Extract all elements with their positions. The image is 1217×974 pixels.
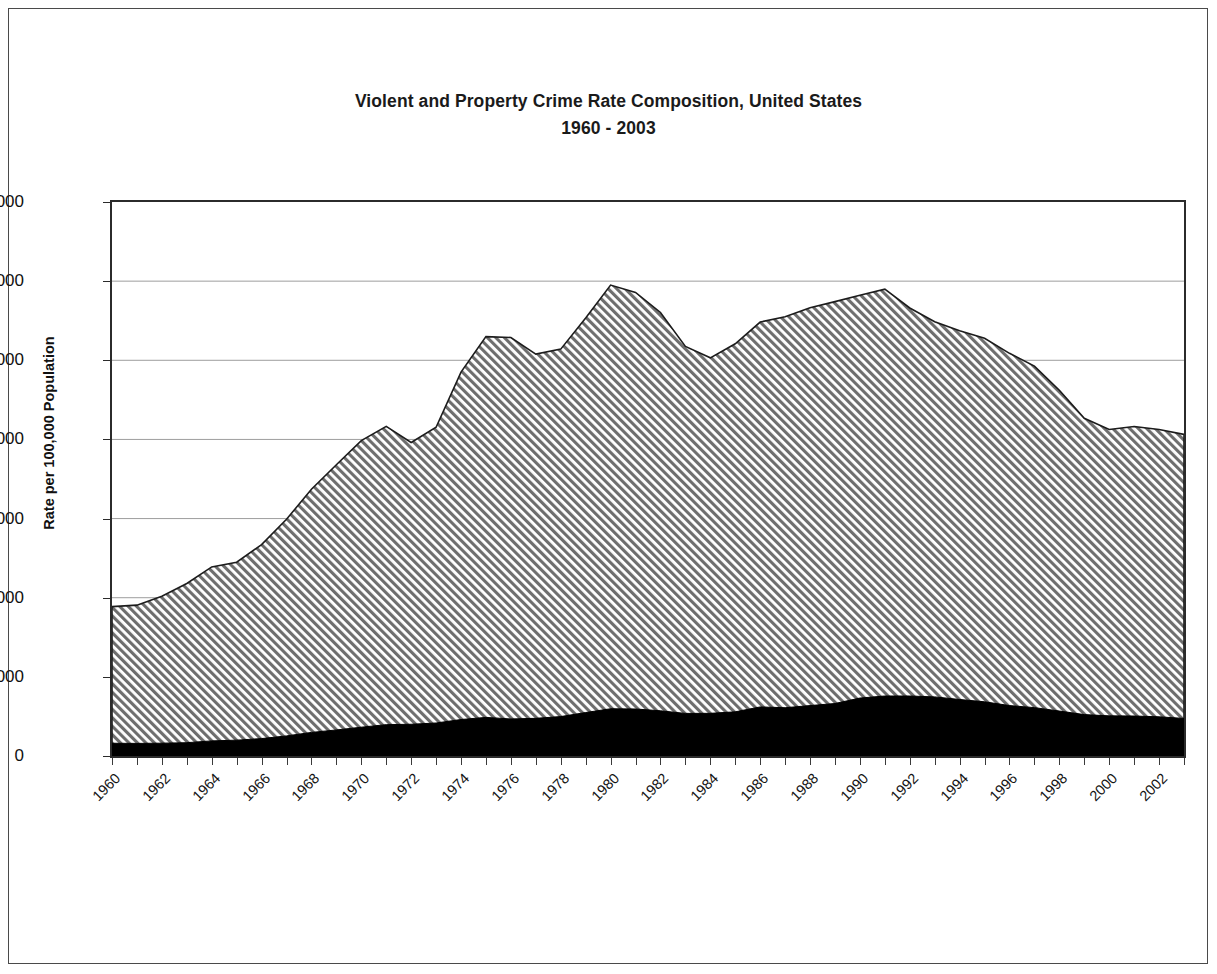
x-tick-mark-1962 — [162, 758, 163, 765]
y-axis-title: Rate per 100,000 Population — [41, 153, 57, 713]
x-tick-mark-1987 — [785, 758, 786, 765]
x-tick-mark-1972 — [411, 758, 412, 765]
x-tick-mark-1966 — [262, 758, 263, 765]
x-tick-mark-2002 — [1159, 758, 1160, 765]
x-tick-mark-1976 — [511, 758, 512, 765]
x-tick-mark-1999 — [1084, 758, 1085, 765]
stacked-area-plot — [112, 202, 1184, 756]
y-tick-label-0: 0 — [0, 746, 24, 766]
x-tick-mark-1985 — [735, 758, 736, 765]
chart-page: Violent and Property Crime Rate Composit… — [0, 0, 1217, 974]
x-tick-mark-1977 — [536, 758, 537, 765]
x-tick-mark-1986 — [760, 758, 761, 765]
plot-area — [110, 200, 1186, 758]
x-tick-mark-1995 — [985, 758, 986, 765]
x-tick-mark-1964 — [212, 758, 213, 765]
x-tick-mark-1984 — [710, 758, 711, 765]
x-tick-mark-1963 — [187, 758, 188, 765]
x-tick-mark-1960 — [112, 758, 113, 765]
x-tick-mark-1974 — [461, 758, 462, 765]
x-tick-mark-1998 — [1059, 758, 1060, 765]
x-tick-mark-2000 — [1109, 758, 1110, 765]
x-tick-mark-1988 — [810, 758, 811, 765]
x-tick-mark-1969 — [336, 758, 337, 765]
x-tick-mark-1979 — [586, 758, 587, 765]
y-tick-label-6000: 6000 — [0, 271, 24, 291]
chart-title-line1: Violent and Property Crime Rate Composit… — [355, 91, 862, 111]
x-tick-mark-1993 — [935, 758, 936, 765]
x-tick-mark-1989 — [835, 758, 836, 765]
x-tick-mark-1980 — [611, 758, 612, 765]
x-tick-mark-1997 — [1034, 758, 1035, 765]
x-tick-mark-1975 — [486, 758, 487, 765]
y-tick-label-1000: 1000 — [0, 667, 24, 687]
x-tick-mark-1961 — [137, 758, 138, 765]
y-tick-label-5000: 5000 — [0, 350, 24, 370]
x-tick-mark-1996 — [1009, 758, 1010, 765]
x-tick-mark-2001 — [1134, 758, 1135, 765]
x-tick-mark-1967 — [287, 758, 288, 765]
x-tick-mark-1968 — [311, 758, 312, 765]
y-tick-label-7000: 7000 — [0, 192, 24, 212]
x-tick-mark-1978 — [561, 758, 562, 765]
x-tick-mark-2003 — [1184, 758, 1185, 765]
y-tick-label-4000: 4000 — [0, 429, 24, 449]
x-tick-mark-1991 — [885, 758, 886, 765]
x-tick-mark-1990 — [860, 758, 861, 765]
chart-title: Violent and Property Crime Rate Composit… — [0, 88, 1217, 142]
x-tick-mark-1965 — [237, 758, 238, 765]
chart-title-line2: 1960 - 2003 — [0, 115, 1217, 142]
x-tick-mark-1992 — [910, 758, 911, 765]
x-tick-mark-1971 — [386, 758, 387, 765]
x-tick-mark-1981 — [636, 758, 637, 765]
x-tick-mark-1973 — [436, 758, 437, 765]
y-tick-label-3000: 3000 — [0, 509, 24, 529]
x-tick-mark-1994 — [960, 758, 961, 765]
y-tick-label-2000: 2000 — [0, 588, 24, 608]
x-tick-mark-1970 — [361, 758, 362, 765]
x-tick-mark-1982 — [660, 758, 661, 765]
x-tick-mark-1983 — [685, 758, 686, 765]
property-crime-area — [112, 285, 1184, 756]
